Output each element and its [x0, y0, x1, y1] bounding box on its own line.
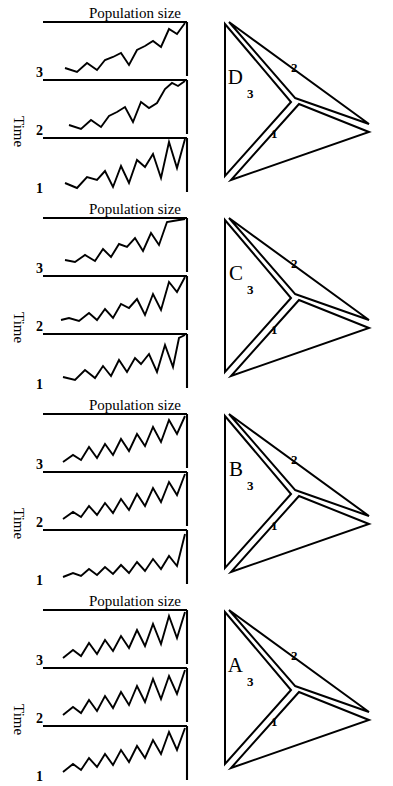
axis-label-time: Time	[10, 116, 27, 147]
wedge-label-2: 2	[291, 256, 298, 271]
panel-c-series: 1 2	[0, 198, 197, 394]
wedge-label-3: 3	[247, 478, 254, 493]
wedge-label-1: 1	[271, 714, 278, 729]
wedge-label-2: 2	[291, 648, 298, 663]
trace-label-1: 1	[36, 573, 43, 589]
three-wedge-triangle-icon: 1 2 3	[207, 598, 387, 778]
panel-a-traces: 1 2	[35, 594, 195, 782]
wedge-label-2: 2	[291, 452, 298, 467]
trace-plot-1	[35, 136, 195, 194]
trace-row-2: 2	[35, 274, 195, 332]
trace-row-2: 2	[35, 666, 195, 724]
panel-a: 1 2 3 A 1	[0, 590, 393, 786]
trace-plot-3	[35, 20, 195, 78]
panel-b-diagram: 1 2 3 B	[197, 394, 393, 590]
panel-d-diagram: 1 2 3 D	[197, 2, 393, 198]
wedge-label-3: 3	[247, 86, 254, 101]
panel-c-traces: 1 2	[35, 202, 195, 390]
figure-canvas: 1 2 3 A 1	[0, 0, 393, 786]
axis-label-time: Time	[10, 508, 27, 539]
trace-plot-3	[35, 608, 195, 666]
trace-row-3: 3	[35, 412, 195, 470]
trace-label-3: 3	[36, 653, 43, 669]
trace-label-1: 1	[36, 377, 43, 393]
trace-plot-2	[35, 78, 195, 136]
trace-label-3: 3	[36, 457, 43, 473]
wedge-label-3: 3	[247, 674, 254, 689]
trace-plot-1	[35, 332, 195, 390]
trace-label-2: 2	[36, 319, 43, 335]
panel-b: 1 2 3 B 1	[0, 394, 393, 590]
trace-row-1: 1	[35, 332, 195, 390]
trace-row-1: 1	[35, 724, 195, 782]
trace-row-3: 3	[35, 216, 195, 274]
panel-a-series: 1 2	[0, 590, 197, 786]
trace-plot-3	[35, 216, 195, 274]
figure-rotator: 1 2 3 A 1	[0, 0, 393, 786]
trace-plot-1	[35, 724, 195, 782]
three-wedge-triangle-icon: 1 2 3	[207, 402, 387, 582]
trace-plot-3	[35, 412, 195, 470]
panel-d-traces: 1 2	[35, 6, 195, 194]
axis-label-population-size: Population size	[89, 201, 181, 218]
panel-letter-c: C	[229, 261, 243, 286]
panel-letter-d: D	[228, 65, 243, 90]
trace-label-2: 2	[36, 711, 43, 727]
trace-row-3: 3	[35, 20, 195, 78]
trace-label-3: 3	[36, 65, 43, 81]
wedge-label-2: 2	[291, 60, 298, 75]
panel-c: 1 2 3 C 1	[0, 198, 393, 394]
panel-d: 1 2 3 D 1	[0, 2, 393, 198]
panel-letter-b: B	[229, 457, 243, 482]
panel-d-series: 1 2	[0, 2, 197, 198]
trace-row-1: 1	[35, 136, 195, 194]
trace-plot-2	[35, 666, 195, 724]
panel-b-traces: 1 2	[35, 398, 195, 586]
panel-c-diagram: 1 2 3 C	[197, 198, 393, 394]
panel-b-series: 1 2	[0, 394, 197, 590]
trace-row-2: 2	[35, 78, 195, 136]
trace-plot-2	[35, 470, 195, 528]
wedge-label-1: 1	[271, 322, 278, 337]
trace-label-1: 1	[36, 769, 43, 785]
axis-label-time: Time	[10, 312, 27, 343]
trace-label-1: 1	[36, 181, 43, 197]
trace-label-2: 2	[36, 515, 43, 531]
trace-label-3: 3	[36, 261, 43, 277]
trace-row-3: 3	[35, 608, 195, 666]
panel-letter-a: A	[228, 653, 243, 678]
axis-label-time: Time	[10, 704, 27, 735]
trace-plot-1	[35, 528, 195, 586]
wedge-label-3: 3	[247, 282, 254, 297]
axis-label-population-size: Population size	[89, 593, 181, 610]
wedge-label-1: 1	[271, 126, 278, 141]
wedge-label-1: 1	[271, 518, 278, 533]
three-wedge-triangle-icon: 1 2 3	[207, 206, 387, 386]
axis-label-population-size: Population size	[89, 5, 181, 22]
trace-row-1: 1	[35, 528, 195, 586]
trace-row-2: 2	[35, 470, 195, 528]
three-wedge-triangle-icon: 1 2 3	[207, 10, 387, 190]
trace-plot-2	[35, 274, 195, 332]
axis-label-population-size: Population size	[89, 397, 181, 414]
trace-label-2: 2	[36, 123, 43, 139]
panel-a-diagram: 1 2 3 A	[197, 590, 393, 786]
